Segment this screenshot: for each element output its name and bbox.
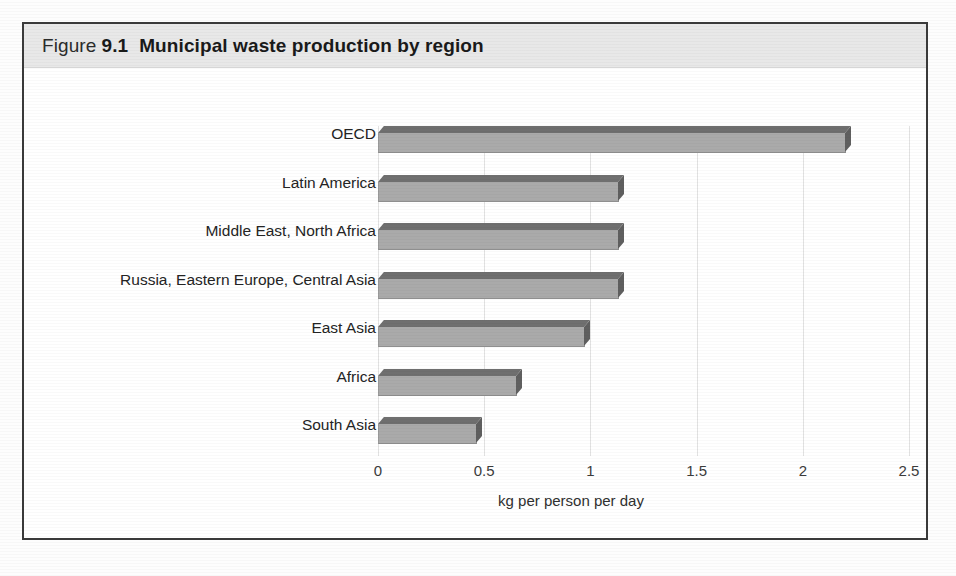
category-label: Africa [336,368,376,386]
bar [378,175,618,201]
bar-front-face [378,182,619,202]
figure-number: 9.1 [96,35,128,56]
bar-side-face [618,223,624,249]
bar-top-face [378,320,590,327]
category-label: OECD [331,125,376,143]
x-tick-label: 0 [374,462,382,479]
x-tick-label: 2 [799,462,807,479]
x-tick-label: 1.5 [686,462,707,479]
bar-row: Russia, Eastern Europe, Central Asia [24,262,928,306]
bar-row: Latin America [24,165,928,209]
category-label: Russia, Eastern Europe, Central Asia [120,271,376,289]
chart-area: 00.511.522.5 OECDLatin AmericaMiddle Eas… [24,68,926,538]
bar-row: Middle East, North Africa [24,213,928,257]
category-label: Middle East, North Africa [205,222,376,240]
bar [378,223,618,249]
bar-row: South Asia [24,407,928,451]
x-axis-title-text: kg per person per day [498,492,644,509]
bar [378,126,845,152]
bar [378,272,618,298]
figure-title: Figure9.1Municipal waste production by r… [24,35,484,57]
bar-chart-plot: 00.511.522.5 OECDLatin AmericaMiddle Eas… [24,68,928,540]
bar [378,369,516,395]
bar-top-face [378,175,624,182]
bar-top-face [378,417,482,424]
bar-row: East Asia [24,310,928,354]
figure-label-word: Figure [42,35,96,56]
figure-title-text: Municipal waste production by region [128,35,484,56]
bar-side-face [845,126,851,152]
x-tick-label: 1 [586,462,594,479]
x-axis-title: kg per person per day [24,492,928,509]
bar-top-face [378,223,624,230]
bar-row: OECD [24,116,928,160]
category-label: East Asia [311,319,376,337]
bar-front-face [378,327,585,347]
bar-front-face [378,230,619,250]
category-label: Latin America [282,174,376,192]
x-tick-label: 2.5 [899,462,920,479]
bar-top-face [378,369,522,376]
figure-title-band: Figure9.1Municipal waste production by r… [24,24,926,68]
bar-side-face [584,320,590,346]
bar-top-face [378,272,624,279]
figure-frame: Figure9.1Municipal waste production by r… [22,22,928,540]
bar [378,320,584,346]
category-label: South Asia [302,416,376,434]
bar-front-face [378,376,517,396]
bar-top-face [378,126,851,133]
bar-row: Africa [24,359,928,403]
bar-front-face [378,424,477,444]
bar-front-face [378,133,846,153]
x-tick-label: 0.5 [474,462,495,479]
page-background: Figure9.1Municipal waste production by r… [0,0,956,576]
bar [378,417,476,443]
bar-front-face [378,279,619,299]
